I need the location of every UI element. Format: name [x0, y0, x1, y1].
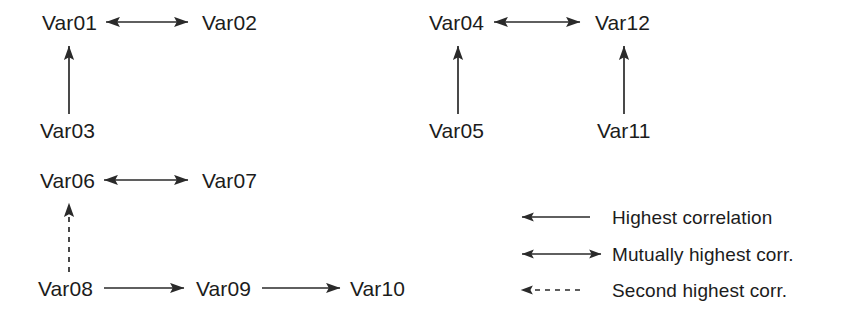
node-label-var09: Var09 [196, 278, 251, 299]
node-label-var04: Var04 [429, 12, 484, 33]
node-label-var05: Var05 [429, 120, 484, 141]
node-label-var03: Var03 [40, 120, 95, 141]
node-label-var12: Var12 [595, 12, 650, 33]
node-label-var06: Var06 [40, 170, 95, 191]
node-label-var02: Var02 [202, 12, 257, 33]
node-label-var07: Var07 [202, 170, 257, 191]
legend-label-2: Second highest corr. [612, 281, 787, 300]
edge-layer [0, 0, 851, 315]
node-label-var01: Var01 [42, 12, 97, 33]
node-label-var10: Var10 [350, 278, 405, 299]
legend-label-1: Mutually highest corr. [612, 245, 794, 264]
correlation-diagram: Var01Var02Var03Var04Var12Var05Var11Var06… [0, 0, 851, 315]
legend-label-0: Highest correlation [612, 208, 772, 227]
node-label-var11: Var11 [597, 120, 650, 141]
node-label-var08: Var08 [38, 278, 93, 299]
